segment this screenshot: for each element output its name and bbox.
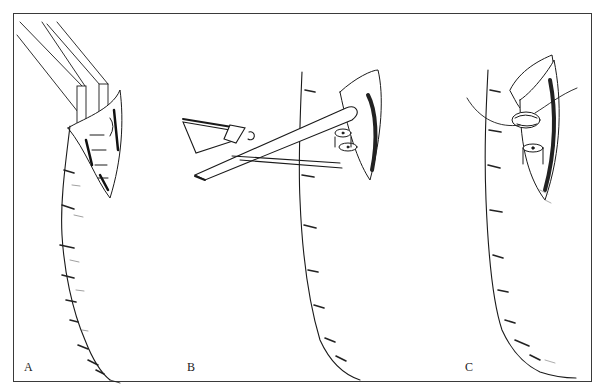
scissors-icon bbox=[183, 107, 357, 180]
panel-label-a: A bbox=[24, 360, 33, 375]
panel-b-drawing bbox=[183, 70, 381, 380]
panel-label-b: B bbox=[187, 360, 195, 375]
panel-a-drawing bbox=[17, 22, 122, 383]
panel-label-c: C bbox=[465, 360, 473, 375]
panel-c-drawing bbox=[467, 55, 577, 378]
illustration-canvas bbox=[0, 0, 603, 390]
